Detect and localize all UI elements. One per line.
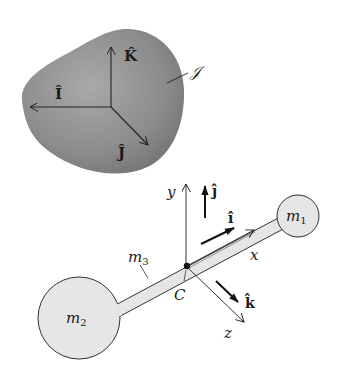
k-hat-label: k̂	[244, 293, 255, 311]
I-hat-label: Î	[55, 85, 62, 103]
x-axis-label: x	[250, 246, 259, 264]
rigid-body: K̂ Î Ĵ 𝒥	[22, 29, 206, 174]
rod-m3	[108, 217, 285, 320]
rigid-body-shape	[22, 29, 184, 174]
z-axis-label: z	[223, 324, 232, 342]
z-axis-arrow	[186, 266, 244, 322]
J-hat-label: Ĵ	[116, 144, 125, 162]
K-hat-label: K̂	[124, 47, 138, 65]
j-hat-label: ĵ	[210, 183, 217, 199]
rod-centerline	[187, 232, 255, 269]
body-label: 𝒥	[189, 63, 206, 81]
dumbbell: y ĵ î x k̂ z C m3 m1 m2	[38, 183, 319, 359]
y-axis-label: y	[166, 183, 176, 201]
rigid-body-dumbbell-figure: K̂ Î Ĵ 𝒥 y ĵ î x k̂ z	[0, 0, 347, 368]
k-hat-arrow	[216, 281, 238, 302]
center-of-mass-label: C	[174, 286, 186, 304]
rod-mass-label: m3	[128, 248, 149, 267]
i-hat-label: î	[228, 210, 234, 226]
i-hat-arrow	[201, 228, 234, 244]
center-of-mass-point	[184, 263, 190, 269]
